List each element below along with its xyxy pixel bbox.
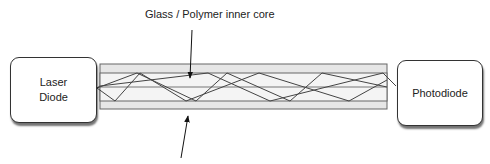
- optical-fiber: [100, 64, 387, 109]
- laser-diode-label-line2: Diode: [39, 90, 68, 105]
- core-label: Glass / Polymer inner core: [145, 8, 275, 20]
- photodiode-label: Photodiode: [412, 86, 468, 101]
- laser-diode-box: Laser Diode: [10, 57, 97, 123]
- laser-diode-label-line1: Laser: [39, 75, 68, 90]
- cladding-pointer-arrow: [181, 116, 188, 158]
- photodiode-box: Photodiode: [397, 60, 483, 126]
